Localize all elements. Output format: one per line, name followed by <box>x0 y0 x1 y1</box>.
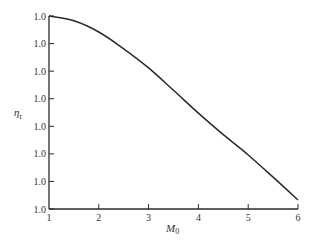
x-tick-label: 1 <box>47 212 52 223</box>
x-tick-label: 3 <box>146 212 151 223</box>
y-tick-label: 1.0 <box>34 176 47 187</box>
y-tick-label: 1.0 <box>34 66 47 77</box>
data-curve <box>49 16 298 200</box>
y-tick-label: 1.0 <box>34 38 47 49</box>
y-tick-label: 1.0 <box>34 148 47 159</box>
y-tick-label: 1.0 <box>34 93 47 104</box>
x-axis-label: M0 <box>165 222 179 236</box>
y-axis-label: ηr <box>14 106 22 121</box>
y-tick-label: 1.0 <box>34 11 47 22</box>
y-axis-ticks: 1.01.01.01.01.01.01.01.0 <box>34 11 55 215</box>
x-axis-ticks: 123456 <box>47 204 301 223</box>
x-tick-label: 6 <box>296 212 301 223</box>
x-tick-label: 5 <box>246 212 251 223</box>
x-tick-label: 2 <box>96 212 101 223</box>
line-chart: 1.01.01.01.01.01.01.01.0 123456 M0 ηr <box>0 0 318 247</box>
x-tick-label: 4 <box>196 212 201 223</box>
y-tick-label: 1.0 <box>34 121 47 132</box>
y-tick-label: 1.0 <box>34 204 47 215</box>
